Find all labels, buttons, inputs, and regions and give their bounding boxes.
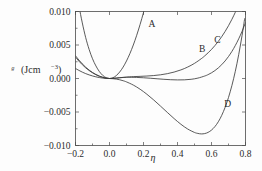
y-tick-label-1: −0.005 [44, 107, 71, 117]
curve-labels: ABCD [149, 19, 232, 109]
chart-plot: −0.20.00.20.40.60.8 −0.010−0.0050.0000.0… [0, 0, 262, 171]
curve-label-b: B [199, 44, 205, 54]
y-tick-label-4: 0.010 [49, 7, 71, 17]
y-axis-title-paren: ) [58, 64, 61, 76]
x-tick-label-2: 0.2 [138, 149, 150, 159]
figure-container: −0.20.00.20.40.60.8 −0.010−0.0050.0000.0… [0, 0, 262, 171]
x-tick-label-1: 0.0 [104, 149, 116, 159]
y-axis-tick-labels: −0.010−0.0050.0000.0050.010 [44, 7, 71, 151]
y-axis-ticks [76, 12, 246, 146]
plot-frame [76, 12, 246, 146]
x-tick-label-3: 0.4 [172, 149, 184, 159]
x-axis-ticks [76, 12, 246, 146]
curve-b [76, 23, 246, 80]
y-axis-title-symbol: ᵍ [11, 64, 15, 75]
y-tick-label-2: 0.000 [49, 74, 71, 84]
curve-label-c: C [214, 35, 220, 45]
y-tick-label-3: 0.005 [49, 40, 71, 50]
y-tick-label-0: −0.010 [44, 141, 71, 151]
x-axis-tick-labels: −0.20.00.20.40.60.8 [67, 149, 252, 159]
curve-label-a: A [149, 19, 156, 29]
curve-label-d: D [224, 99, 231, 109]
x-tick-label-4: 0.6 [206, 149, 218, 159]
x-tick-label-5: 0.8 [240, 149, 252, 159]
curve-group [76, 0, 246, 134]
y-axis-title-unit: (Jcm [21, 64, 41, 76]
x-axis-title: η [151, 152, 156, 163]
